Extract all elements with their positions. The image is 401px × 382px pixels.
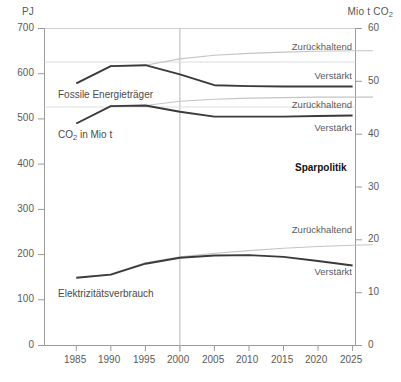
scenario-label-co2-zurueckhaltend: Zurückhaltend: [215, 99, 352, 110]
scenario-label-fossile-zurueckhaltend: Zurückhaltend: [215, 41, 352, 52]
scenario-label-elektrizitaet-zurueckhaltend: Zurückhaltend: [215, 224, 352, 235]
left-tick-label-200: 200: [2, 248, 34, 259]
left-tick-label-0: 0: [2, 339, 34, 350]
right-tick-label-20: 20: [368, 233, 379, 244]
right-tick-label-30: 30: [368, 181, 379, 192]
left-tick-label-500: 500: [2, 112, 34, 123]
x-tick-label-1995: 1995: [133, 354, 155, 365]
left-tick-label-300: 300: [2, 203, 34, 214]
x-tick-label-2015: 2015: [271, 354, 293, 365]
x-tick-label-2025: 2025: [340, 354, 362, 365]
right-tick-marks: [356, 29, 363, 346]
series-label-elektrizitaetsverbrauch: Elektrizitätsverbrauch: [58, 288, 154, 299]
x-tick-label-1985: 1985: [64, 354, 86, 365]
x-tick-label-2020: 2020: [305, 354, 327, 365]
x-tick-marks: [76, 346, 352, 352]
left-tick-label-700: 700: [2, 22, 34, 33]
left-tick-label-600: 600: [2, 67, 34, 78]
x-tick-label-2010: 2010: [236, 354, 258, 365]
scenario-label-elektrizitaet-verstaerkt: Verstärkt: [215, 266, 352, 277]
series-label-fossile-energietraeger: Fossile Energieträger: [58, 89, 153, 100]
annotation-sparpolitik: Sparpolitik: [295, 162, 347, 173]
right-tick-label-10: 10: [368, 286, 379, 297]
series-label-co2-suffix: in Mio t: [77, 129, 112, 140]
scenario-label-fossile-verstaerkt: Verstärkt: [215, 70, 352, 81]
x-tick-label-2005: 2005: [202, 354, 224, 365]
x-tick-label-1990: 1990: [98, 354, 120, 365]
left-tick-label-400: 400: [2, 158, 34, 169]
chart-container: PJ Mio t CO2: [0, 0, 401, 382]
right-tick-label-60: 60: [368, 22, 379, 33]
left-tick-marks: [38, 29, 45, 346]
series-label-co2-subscript: 2: [73, 133, 77, 142]
right-tick-label-50: 50: [368, 75, 379, 86]
series-label-co2-prefix: CO: [58, 129, 73, 140]
x-tick-label-2000: 2000: [167, 354, 189, 365]
plot-area: [0, 0, 401, 382]
right-tick-label-0: 0: [368, 339, 374, 350]
left-tick-label-100: 100: [2, 293, 34, 304]
series-label-co2-in-mio-t: CO2 in Mio t: [58, 129, 112, 140]
scenario-label-co2-verstaerkt: Verstärkt: [215, 122, 352, 133]
right-tick-label-40: 40: [368, 128, 379, 139]
